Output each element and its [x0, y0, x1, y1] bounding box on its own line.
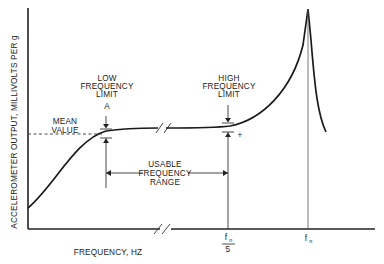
y-axis-label: ACCELEROMETER OUTPUT, MILLIVOLTS PER g [10, 35, 19, 229]
x-axis-label: FREQUENCY, HZ [74, 248, 142, 257]
svg-text:n: n [309, 238, 312, 244]
tick-fn-over-5: f n 5 [222, 233, 235, 254]
arrowhead-right-icon [223, 170, 228, 176]
high-limit-label-line3: LIMIT [218, 90, 240, 99]
usable-range-label-line3: RANGE [150, 178, 180, 187]
usable-range-label-line2: FREQUENCY [138, 169, 192, 178]
mean-value-label-line2: VALUE [51, 126, 79, 135]
arrowhead-icon [225, 118, 231, 123]
frequency-response-diagram: ACCELEROMETER OUTPUT, MILLIVOLTS PER g F… [0, 0, 384, 264]
svg-text:5: 5 [226, 245, 231, 254]
tick-fn: f n [305, 234, 313, 244]
response-curve-low [28, 128, 158, 208]
mean-value-label-line1: MEAN [53, 117, 77, 126]
low-limit-label-line3: LIMIT [96, 90, 118, 99]
arrowhead-left-icon [106, 170, 111, 176]
high-limit-marker-plus: + [238, 131, 243, 140]
low-limit-marker-a: A [104, 102, 110, 111]
svg-text:f: f [225, 233, 228, 242]
arrowhead-icon [103, 139, 109, 144]
response-curve-high [166, 9, 326, 132]
svg-text:f: f [305, 234, 308, 243]
svg-text:n: n [229, 237, 232, 243]
arrowhead-icon [103, 124, 109, 129]
usable-range-label-line1: USABLE [148, 160, 182, 169]
